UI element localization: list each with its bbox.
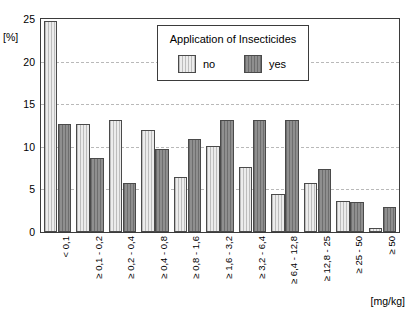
bar-no-8 [304,183,318,232]
bar-no-1 [76,124,90,232]
x-axis-tick-label: ≥ 12,8 - 25 [322,236,332,281]
legend-label-no: no [203,58,215,70]
bar-no-5 [206,146,220,232]
y-axis-tick-label: 5 [29,184,35,194]
x-axis-tick-label: ≥ 25 - 50 [354,236,364,273]
x-axis-tick-label: ≥ 1,6 - 3,2 [224,236,234,279]
legend-swatch-no-icon [178,55,196,73]
bar-yes-8 [318,169,332,232]
bar-no-7 [271,194,285,232]
bar-yes-6 [253,120,267,232]
bar-chart: [%] 0510152025 < 0,1≥ 0,1 - 0,2≥ 0,2 - 0… [0,0,410,309]
x-axis-tick-label: ≥ 3,2 - 6,4 [257,236,267,279]
x-axis-tick-label: ≥ 0,4 - 0,8 [159,236,169,279]
bar-yes-3 [155,149,169,232]
bar-yes-7 [285,120,299,232]
legend: Application of Insecticides no yes [157,25,309,81]
legend-label-yes: yes [269,58,286,70]
legend-swatch-yes-icon [244,55,262,73]
bar-no-0 [44,21,58,232]
bar-no-2 [109,120,123,232]
x-axis-tick-label: ≥ 0,2 - 0,4 [126,236,136,279]
x-axis-tick-label: ≥ 6,4 - 12,8 [289,236,299,284]
x-axis-tick-label: < 0,1 [61,236,71,257]
x-axis-tick-label: ≥ 50 [387,236,397,254]
x-axis: < 0,1≥ 0,1 - 0,2≥ 0,2 - 0,4≥ 0,4 - 0,8≥ … [41,236,399,306]
bar-yes-0 [58,124,72,232]
bar-yes-4 [188,139,202,232]
legend-title: Application of Insecticides [158,33,308,45]
x-axis-unit-label: [mg/kg] [371,296,405,307]
bar-no-3 [141,130,155,232]
bar-no-4 [174,177,188,232]
legend-item-yes: yes [244,54,286,74]
y-axis-tick-label: 15 [23,99,35,109]
bar-yes-1 [90,158,104,232]
legend-item-no: no [178,54,215,74]
bar-no-9 [336,201,350,232]
y-axis-tick-label: 10 [23,142,35,152]
y-axis-tick-label: 25 [23,14,35,24]
bar-no-6 [239,167,253,232]
x-axis-tick-label: ≥ 0,8 - 1,6 [191,236,201,279]
y-axis: 0510152025 [0,0,40,260]
y-axis-tick-label: 20 [23,57,35,67]
bar-yes-2 [123,183,137,232]
bar-yes-9 [350,202,364,232]
bar-yes-10 [383,207,397,232]
bar-no-10 [369,228,383,232]
x-axis-tick-label: ≥ 0,1 - 0,2 [94,236,104,279]
bar-yes-5 [220,120,234,232]
y-axis-tick-label: 0 [29,227,35,237]
